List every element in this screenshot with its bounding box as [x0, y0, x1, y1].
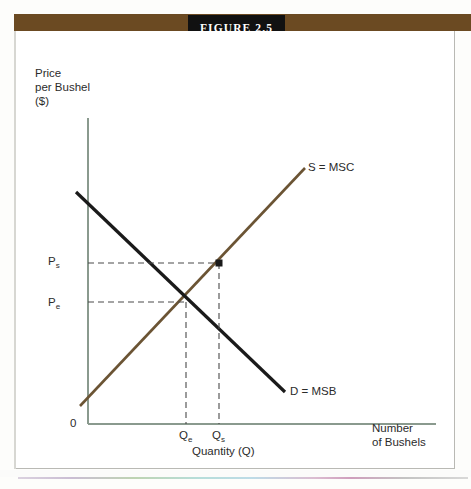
origin-label: 0: [70, 416, 76, 430]
scan-artifact-line: [18, 477, 468, 479]
x-axis-title-right: Number of Bushels: [372, 421, 426, 449]
supply-curve-label: S = MSC: [308, 160, 354, 174]
y-axis-title: Price per Bushel ($): [35, 66, 90, 108]
quantity-tick-qs: Qs: [212, 428, 225, 447]
price-tick-ps: Ps: [48, 254, 60, 273]
page-bottom-margin: [0, 470, 471, 477]
demand-curve-label: D = MSB: [290, 384, 336, 398]
figure-frame-left-edge: [14, 31, 16, 469]
price-tick-pe: Pe: [48, 295, 60, 314]
quantity-tick-qe: Qe: [179, 428, 192, 447]
figure-page: Figure 2.5 Price per Bushel ($) Number o…: [0, 0, 471, 489]
